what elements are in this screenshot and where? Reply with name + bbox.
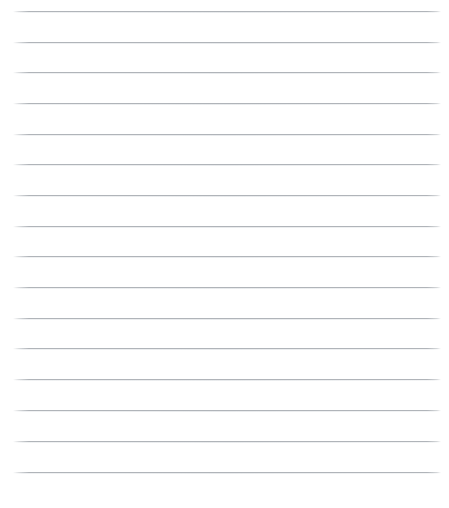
rule-line [13, 410, 441, 411]
rule-line [13, 103, 441, 104]
rule-line [13, 11, 441, 12]
rule-line [13, 318, 441, 319]
rule-line [13, 472, 441, 473]
rule-line [13, 72, 441, 73]
rule-line [13, 134, 441, 135]
rule-line [13, 441, 441, 442]
rule-line [13, 348, 441, 349]
rule-line [13, 195, 441, 196]
rule-line [13, 42, 441, 43]
rule-line [13, 164, 441, 165]
rule-line [13, 226, 441, 227]
rule-line [13, 379, 441, 380]
paper-sheet-background [0, 0, 449, 508]
lined-paper-page [0, 0, 449, 508]
rule-line [13, 256, 441, 257]
rule-line [13, 287, 441, 288]
